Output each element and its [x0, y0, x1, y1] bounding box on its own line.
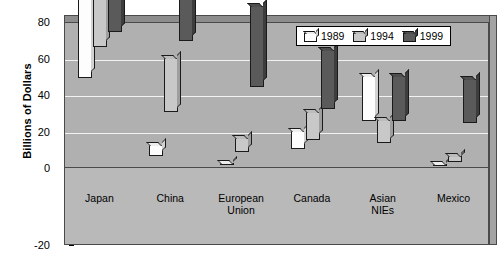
x-axis-category-label: European Union: [206, 193, 277, 216]
bar-side-face: [476, 72, 480, 118]
bar: [93, 0, 107, 47]
bar-top-face: [232, 135, 248, 139]
bar: [448, 156, 462, 161]
legend: 198919941999: [296, 26, 451, 46]
y-axis-tick: [69, 245, 74, 246]
bar-top-face: [389, 73, 405, 77]
bar-top-face: [288, 128, 304, 132]
bar: [392, 76, 406, 122]
bar-chart: Billions of Dollars -20020406080 JapanCh…: [0, 0, 503, 271]
bar: [362, 76, 376, 122]
bar-top-face: [445, 153, 461, 157]
plot-box-right-face: [489, 15, 497, 245]
gridline: [65, 96, 488, 97]
y-axis-tick-labels: -20020406080: [18, 0, 50, 271]
y-axis-tick-label: -20: [34, 239, 50, 251]
bar-side-face: [121, 0, 125, 27]
legend-swatch-icon: [304, 33, 317, 42]
x-axis-category-label: China: [135, 193, 206, 205]
bar: [149, 145, 163, 156]
bar-side-face: [375, 69, 379, 117]
bar-top-face: [318, 47, 334, 51]
bar: [235, 138, 249, 153]
bar: [250, 6, 264, 86]
x-axis-category-label: Mexico: [418, 193, 489, 205]
bar-top-face: [430, 161, 446, 165]
bar-side-face: [248, 131, 252, 148]
x-axis-category-label: Canada: [277, 193, 348, 205]
legend-swatch-icon: [403, 33, 416, 42]
bar-side-face: [177, 51, 181, 108]
bar: [291, 131, 305, 149]
bar-side-face: [334, 43, 338, 103]
legend-item: 1989: [304, 30, 344, 42]
bar-top-face: [460, 76, 476, 80]
bar-side-face: [192, 0, 196, 36]
bar-top-face: [161, 55, 177, 59]
bar: [463, 79, 477, 123]
gridline: [65, 133, 488, 134]
bar-side-face: [233, 156, 237, 162]
bar-side-face: [319, 105, 323, 134]
legend-label: 1994: [370, 30, 393, 42]
bar: [108, 0, 122, 32]
bar-top-face: [247, 3, 263, 7]
bar: [433, 164, 447, 167]
bar-top-face: [374, 117, 390, 121]
bar-top-face: [146, 142, 162, 146]
y-axis-tick-label: 40: [38, 89, 50, 101]
bar-side-face: [405, 69, 409, 117]
bar: [377, 120, 391, 144]
bar: [220, 163, 234, 166]
x-axis-category-label: Japan: [64, 193, 135, 205]
bar-top-face: [303, 109, 319, 113]
x-axis-category-label: Asian NIEs: [347, 193, 418, 216]
bar-top-face: [217, 160, 233, 164]
y-axis-tick-label: 0: [44, 162, 50, 174]
bar: [78, 0, 92, 78]
y-axis-tick-label: 60: [38, 53, 50, 65]
legend-label: 1989: [321, 30, 344, 42]
legend-item: 1994: [353, 30, 393, 42]
legend-swatch-icon: [353, 33, 366, 42]
bar-top-face: [359, 73, 375, 77]
y-axis-tick-label: 80: [38, 16, 50, 28]
bar-side-face: [461, 149, 465, 156]
bar-side-face: [162, 138, 166, 151]
plot-floor: [64, 168, 489, 245]
legend-item: 1999: [403, 30, 443, 42]
y-axis-tick-label: 20: [38, 126, 50, 138]
bar: [321, 50, 335, 108]
bar: [179, 0, 193, 41]
bar: [164, 58, 178, 113]
legend-label: 1999: [420, 30, 443, 42]
bar-side-face: [263, 0, 267, 82]
bar: [306, 112, 320, 139]
gridline: [65, 60, 488, 61]
